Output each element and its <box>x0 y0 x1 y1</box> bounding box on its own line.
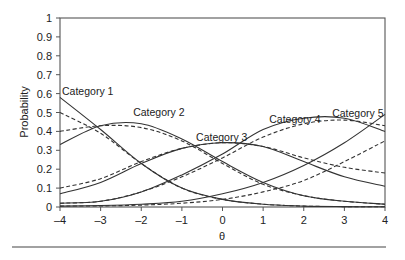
y-tick-label: 0.6 <box>37 88 52 100</box>
dashed-category-curve <box>60 113 385 207</box>
y-tick-label: 0.7 <box>37 69 52 81</box>
x-tick-label: 0 <box>219 214 225 226</box>
x-tick-label: –2 <box>135 214 147 226</box>
y-tick-label: 0.9 <box>37 31 52 43</box>
y-tick-label: 0.4 <box>37 125 52 137</box>
y-tick-label: 0.5 <box>37 107 52 119</box>
probability-chart: 00.10.20.30.40.50.60.70.80.91 –4–3–2–101… <box>0 0 405 260</box>
category-label: Category 1 <box>62 85 114 97</box>
y-tick-label: 1 <box>46 12 52 24</box>
x-tick-label: 3 <box>341 214 347 226</box>
y-tick-label: 0.8 <box>37 50 52 62</box>
y-axis-ticks: 00.10.20.30.40.50.60.70.80.91 <box>37 12 60 213</box>
y-axis-title: Probability <box>18 86 30 138</box>
x-axis-title: θ <box>219 230 225 242</box>
solid-category-curve <box>60 143 385 194</box>
category-label: Category 4 <box>269 113 321 125</box>
x-tick-label: –3 <box>95 214 107 226</box>
y-tick-label: 0.3 <box>37 144 52 156</box>
category-labels: Category 1Category 2Category 3Category 4… <box>62 85 384 142</box>
category-label: Category 3 <box>196 131 248 143</box>
solid-category-curve <box>60 117 385 204</box>
y-tick-label: 0.1 <box>37 182 52 194</box>
x-tick-label: 1 <box>260 214 266 226</box>
category-label: Category 5 <box>332 107 384 119</box>
y-tick-label: 0 <box>46 201 52 213</box>
x-tick-label: 2 <box>301 214 307 226</box>
solid-category-curve <box>60 114 385 206</box>
x-tick-label: –4 <box>54 214 66 226</box>
y-tick-label: 0.2 <box>37 163 52 175</box>
category-label: Category 2 <box>133 106 185 118</box>
dashed-category-curve <box>60 141 385 206</box>
x-tick-label: –1 <box>176 214 188 226</box>
x-axis-ticks: –4–3–2–101234 <box>54 207 388 226</box>
x-tick-label: 4 <box>382 214 388 226</box>
